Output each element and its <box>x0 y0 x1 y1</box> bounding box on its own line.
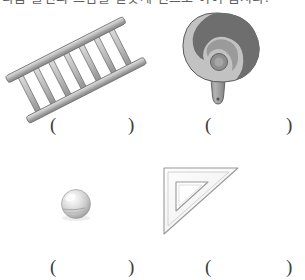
answer-paren-close: ) <box>128 254 134 280</box>
answer-paren-open: ( <box>50 112 56 138</box>
answer-paren-close: ) <box>128 112 134 138</box>
answer-paren-close: ) <box>286 112 292 138</box>
answer-paren-open: ( <box>50 254 56 280</box>
answer-blank-triangle-ruler[interactable]: ( ) <box>152 254 304 280</box>
instruction-text: 다음 물건의 쓰임을 알맞게 선으로 이어 봅시다. <box>2 0 269 5</box>
answer-paren-close: ) <box>286 254 292 280</box>
answer-blank-ladder[interactable]: ( ) <box>0 112 152 138</box>
triangle-ruler-illustration <box>152 150 304 258</box>
item-cell-ball: ( ) <box>0 150 152 280</box>
ladder-illustration <box>0 8 152 116</box>
item-cell-triangle-ruler: ( ) <box>152 150 304 280</box>
sphere-illustration <box>0 150 152 258</box>
answer-blank-hand-fan[interactable]: ( ) <box>152 112 304 138</box>
item-cell-ladder: ( ) <box>0 8 152 138</box>
answer-paren-open: ( <box>205 112 211 138</box>
hand-fan-illustration <box>152 8 304 116</box>
item-cell-hand-fan: ( ) <box>152 8 304 138</box>
answer-blank-ball[interactable]: ( ) <box>0 254 152 280</box>
answer-paren-open: ( <box>205 254 211 280</box>
